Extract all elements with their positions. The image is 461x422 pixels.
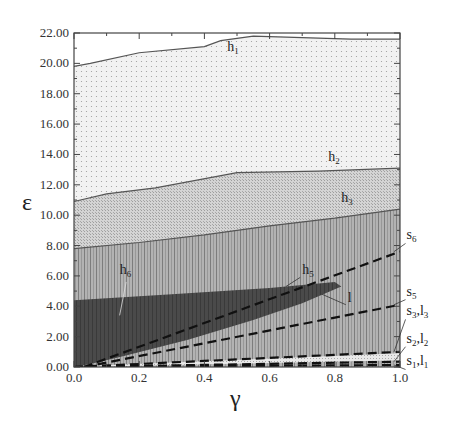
y-tick-label: 10.00 xyxy=(40,207,69,222)
x-tick-label: 0.2 xyxy=(131,370,147,385)
y-tick-label: 6.00 xyxy=(46,268,69,283)
y-tick-label: 8.00 xyxy=(46,238,69,253)
label-s2-l2: s2,l2 xyxy=(407,331,429,348)
label-s5: s5 xyxy=(407,284,417,301)
y-tick-label: 18.00 xyxy=(40,86,69,101)
y-tick-label: 20.00 xyxy=(40,55,69,70)
x-tick-label: 0.8 xyxy=(327,370,343,385)
x-tick-label: 0.0 xyxy=(66,370,82,385)
x-tick-label: 0.4 xyxy=(196,370,213,385)
x-tick-label: 0.6 xyxy=(261,370,278,385)
y-tick-label: 4.00 xyxy=(46,298,69,313)
y-tick-label: 16.00 xyxy=(40,116,69,131)
phase-diagram-chart: 0.002.004.006.008.0010.0012.0014.0016.00… xyxy=(0,0,461,422)
x-axis-label: γ xyxy=(229,385,241,411)
label-s6: s6 xyxy=(407,227,417,244)
x-tick-label: 1.0 xyxy=(392,370,408,385)
annotation-l: l xyxy=(348,290,352,305)
y-tick-label: 12.00 xyxy=(40,177,69,192)
label-s3-l3: s3,l3 xyxy=(407,303,429,320)
label-s1-l1: s1,l1 xyxy=(407,353,429,370)
y-tick-label: 22.00 xyxy=(40,25,69,40)
y-tick-label: 14.00 xyxy=(40,146,69,161)
y-axis-label: ε xyxy=(22,189,32,215)
y-tick-label: 2.00 xyxy=(46,329,69,344)
